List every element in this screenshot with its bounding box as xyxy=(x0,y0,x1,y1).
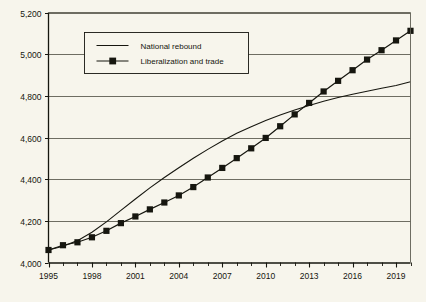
y-axis-tick-label: 5,200 xyxy=(20,9,42,19)
x-axis-tick-label: 1998 xyxy=(82,271,101,281)
y-axis-tick-label: 4,600 xyxy=(20,134,42,144)
series-marker-1 xyxy=(248,145,254,151)
series-marker-1 xyxy=(277,123,283,129)
chart-figure: 4,0004,2004,4004,6004,8005,0005,20019951… xyxy=(0,0,426,302)
x-axis-tick-label: 2013 xyxy=(300,271,319,281)
y-axis-tick-label: 5,000 xyxy=(20,50,42,60)
x-axis-tick-label: 2007 xyxy=(213,271,232,281)
y-axis-tick-label: 4,800 xyxy=(20,92,42,102)
legend-box xyxy=(85,33,249,74)
series-marker-1 xyxy=(89,234,95,240)
series-marker-1 xyxy=(393,37,399,43)
x-axis-tick-label: 2004 xyxy=(169,271,188,281)
series-marker-1 xyxy=(234,155,240,161)
series-marker-1 xyxy=(132,213,138,219)
series-marker-1 xyxy=(176,192,182,198)
y-axis-tick-label: 4,000 xyxy=(20,259,42,269)
x-axis-tick-label: 2001 xyxy=(126,271,145,281)
legend-label-0: National rebound xyxy=(141,42,202,51)
series-marker-1 xyxy=(205,174,211,180)
series-marker-1 xyxy=(364,56,370,62)
series-marker-1 xyxy=(349,67,355,73)
series-marker-1 xyxy=(103,228,109,234)
x-axis-tick-label: 1995 xyxy=(39,271,58,281)
series-marker-1 xyxy=(74,239,80,245)
series-marker-1 xyxy=(60,242,66,248)
x-axis-tick-label: 2010 xyxy=(256,271,275,281)
legend-swatch-square-1 xyxy=(109,58,116,65)
x-axis-tick-label: 2019 xyxy=(387,271,406,281)
y-axis-tick-label: 4,400 xyxy=(20,175,42,185)
series-marker-1 xyxy=(147,206,153,212)
y-axis-tick-label: 4,200 xyxy=(20,217,42,227)
series-marker-1 xyxy=(321,88,327,94)
series-marker-1 xyxy=(378,47,384,53)
legend-label-1: Liberalization and trade xyxy=(141,57,225,66)
series-marker-1 xyxy=(161,199,167,205)
chart-legend: National reboundLiberalization and trade xyxy=(85,33,249,74)
series-line-0 xyxy=(49,82,411,250)
series-marker-1 xyxy=(219,165,225,171)
series-marker-1 xyxy=(118,220,124,226)
series-marker-1 xyxy=(306,100,312,106)
series-marker-1 xyxy=(190,184,196,190)
series-marker-1 xyxy=(292,111,298,117)
chart-canvas: 4,0004,2004,4004,6004,8005,0005,20019951… xyxy=(0,0,426,302)
x-axis-tick-label: 2016 xyxy=(343,271,362,281)
series-marker-1 xyxy=(335,78,341,84)
series-marker-1 xyxy=(263,135,269,141)
